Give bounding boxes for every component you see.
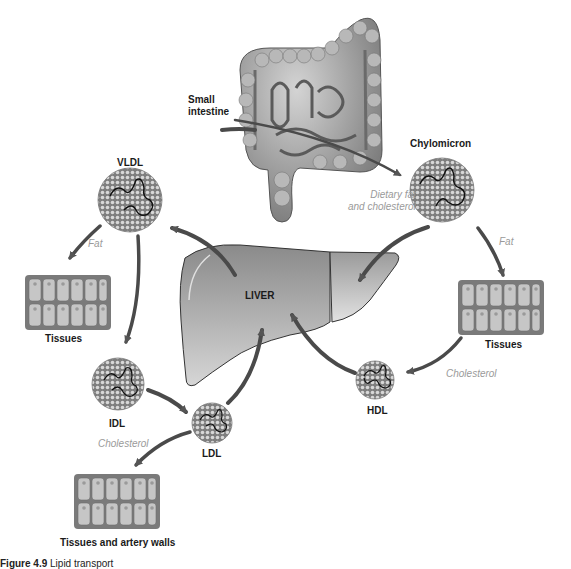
- dietary-line2: and cholesterol: [348, 201, 416, 213]
- tissue-block-right: [458, 280, 544, 335]
- vldl-label: VLDL: [117, 157, 143, 168]
- dietary-line1: Dietary fat: [348, 189, 416, 201]
- tissues-artery-label: Tissues and artery walls: [60, 537, 175, 548]
- ldl-label: LDL: [202, 448, 221, 459]
- dietary-fat-label: Dietary fat and cholesterol: [348, 189, 416, 213]
- small-intestine-label-line2: intestine: [188, 106, 229, 118]
- small-intestine-label-line1: Small: [188, 94, 229, 106]
- tissue-block-left: [25, 275, 111, 330]
- tissues-left-label: Tissues: [45, 333, 82, 344]
- figure-caption: Figure 4.9 Lipid transport: [0, 558, 113, 569]
- hdl-cholesterol-label: Cholesterol: [446, 368, 497, 379]
- chylomicron-fat-label: Fat: [499, 236, 513, 247]
- caption-text: Lipid transport: [50, 558, 113, 569]
- vldl-particle: [98, 168, 162, 232]
- idl-particle: [92, 358, 144, 410]
- ldl-particle: [192, 403, 232, 443]
- vldl-fat-label: Fat: [88, 238, 102, 249]
- caption-number: Figure 4.9: [0, 558, 47, 569]
- ldl-cholesterol-label: Cholesterol: [98, 438, 149, 449]
- idl-label: IDL: [109, 418, 125, 429]
- tissues-right-label: Tissues: [485, 339, 522, 350]
- chylomicron-label: Chylomicron: [410, 138, 471, 149]
- small-intestine-label: Small intestine: [188, 94, 229, 118]
- chylomicron-particle: [410, 158, 474, 222]
- liver-label: LIVER: [245, 290, 274, 301]
- tissue-block-bottom: [74, 474, 160, 529]
- hdl-label: HDL: [367, 405, 388, 416]
- hdl-particle: [356, 361, 394, 399]
